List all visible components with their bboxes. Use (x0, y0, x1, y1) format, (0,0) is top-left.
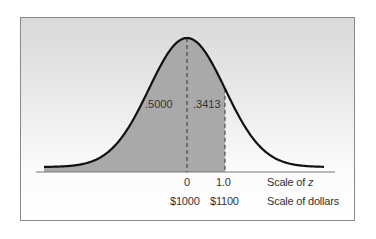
z-scale-label: Scale of z (267, 176, 313, 188)
z-scale-text: Scale of (267, 176, 308, 188)
dollar-scale-label: Scale of dollars (267, 195, 339, 207)
z-tick-one: 1.0 (216, 176, 231, 188)
right-area-label: .3413 (193, 98, 221, 110)
left-area-label: .5000 (145, 98, 173, 110)
z-symbol: z (308, 176, 313, 188)
dollar-tick-one: $1100 (210, 195, 239, 207)
dollar-tick-zero: $1000 (170, 195, 200, 207)
z-tick-zero: 0 (184, 176, 190, 188)
